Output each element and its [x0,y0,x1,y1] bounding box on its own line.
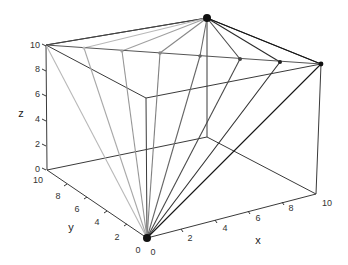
z-tick-0: 0 [35,164,40,174]
x-tick-6: 6 [255,213,260,223]
x-axis-label: x [255,234,261,246]
y-axis-tick-labels: 10 8 6 4 2 0 [33,175,141,255]
x-tick-0: 0 [150,247,155,257]
z-tick-2: 2 [35,139,40,149]
top-apex-marker [203,14,211,22]
x-tick-4: 4 [222,223,227,233]
diagonal-markers [82,46,323,66]
z-axis-ticks [42,44,46,170]
y-axis-label: y [68,221,74,233]
x-tick-8: 8 [288,203,293,213]
y-tick-4: 4 [94,217,99,227]
z-axis-label: z [18,107,24,119]
z-tick-8: 8 [35,64,40,74]
y-tick-6: 6 [74,204,79,214]
x-tick-10: 10 [322,198,332,208]
axes-box [46,18,321,238]
x-tick-2: 2 [187,233,192,243]
3d-line-plot: 10 8 6 4 2 0 z 10 8 6 4 2 0 y 0 2 4 6 8 … [0,0,348,265]
y-tick-2: 2 [114,232,119,242]
z-tick-4: 4 [35,114,40,124]
z-tick-6: 6 [35,89,40,99]
y-tick-0: 0 [135,245,140,255]
z-tick-10: 10 [30,40,40,50]
y-tick-8: 8 [55,191,60,201]
origin-marker [143,234,151,242]
y-tick-10: 10 [33,175,43,185]
z-axis-tick-labels: 10 8 6 4 2 0 [30,40,40,174]
